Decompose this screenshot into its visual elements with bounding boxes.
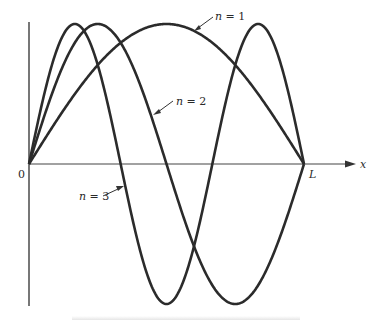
pointer-n2-arrow-icon	[153, 109, 161, 115]
origin-label: 0	[18, 168, 25, 181]
x-axis-arrow-icon	[345, 161, 356, 168]
x-axis-label: x	[360, 158, 367, 171]
label-n3: n = 3	[79, 190, 109, 203]
pointer-n3-arrow-icon	[116, 186, 124, 191]
curve-n1	[29, 24, 304, 164]
pointer-n2	[158, 101, 173, 112]
figure-caption-cropped	[72, 316, 300, 320]
pointer-n1	[198, 17, 213, 28]
end-label: L	[308, 168, 316, 181]
label-n1: n = 1	[215, 10, 245, 23]
pointer-n1-arrow-icon	[194, 25, 201, 31]
label-n2: n = 2	[176, 95, 206, 108]
standing-wave-diagram: 0 L x n = 1 n = 2 n = 3	[0, 0, 371, 320]
